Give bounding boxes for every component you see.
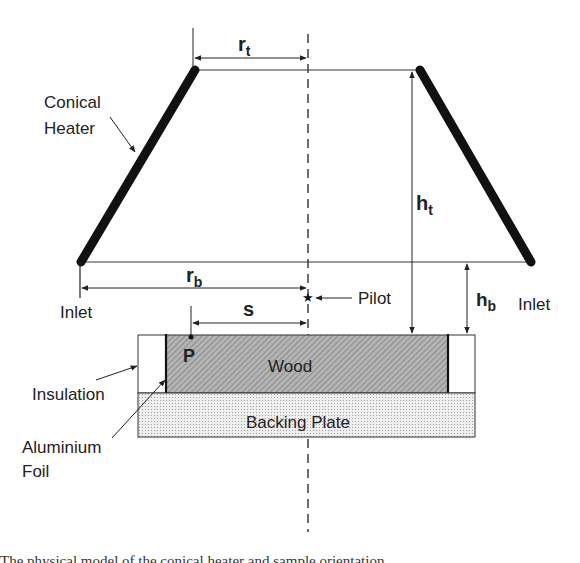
- conical-heater-label-2: Heater: [44, 119, 95, 138]
- wood-label: Wood: [268, 357, 312, 376]
- hb-label: hb: [476, 289, 496, 314]
- aluminium-foil-label-1: Aluminium: [22, 438, 101, 457]
- backing-plate-label: Backing Plate: [246, 413, 350, 432]
- conical-heater-label-1: Conical: [44, 93, 101, 112]
- inlet-right-label: Inlet: [518, 295, 550, 314]
- insulation-right: [448, 335, 475, 393]
- rt-label: rt: [238, 33, 251, 59]
- conical-heater-right: [420, 70, 531, 262]
- inlet-left-label: Inlet: [60, 303, 92, 322]
- ht-label: ht: [416, 192, 433, 218]
- aluminium-foil-label-2: Foil: [22, 462, 49, 481]
- s-label: s: [243, 298, 254, 320]
- pilot-label: Pilot: [358, 289, 391, 308]
- figure-caption-cropped: The physical model of the conical heater…: [0, 548, 580, 563]
- insulation-label: Insulation: [32, 385, 105, 404]
- pilot-star-icon: ★: [302, 290, 314, 305]
- point-p-marker: [189, 335, 194, 340]
- insulation-pointer: [96, 366, 137, 380]
- insulation-left: [138, 335, 166, 393]
- cone-calorimeter-diagram: rt Conical Heater rb Inlet s ★ Pilot ht …: [0, 0, 580, 563]
- conical-heater-pointer: [110, 117, 135, 152]
- point-p-label: P: [183, 346, 195, 366]
- rb-label: rb: [186, 264, 202, 290]
